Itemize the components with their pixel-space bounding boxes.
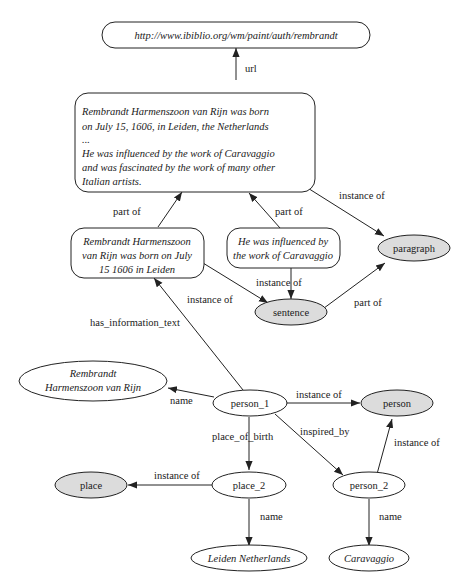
- sentence2-line-2: the work of Caravaggio: [233, 250, 333, 261]
- node-sentence-label: sentence: [273, 307, 309, 318]
- node-sentence1-text[interactable]: Rembrandt Harmenszoon van Rijn was born …: [71, 228, 204, 278]
- node-leiden-label: Leiden Netherlands: [207, 553, 291, 564]
- paragraph-line-3: ...: [82, 134, 90, 145]
- edge-label-sentence1-part-of: part of: [113, 206, 141, 217]
- node-place-2[interactable]: place_2: [212, 472, 286, 498]
- edge-label-place2-instance-of: instance of: [154, 470, 200, 481]
- edge-label-place2-name: name: [260, 511, 283, 522]
- edge-label-inspired-by: inspired_by: [300, 426, 350, 437]
- node-caravaggio[interactable]: Caravaggio: [329, 545, 409, 571]
- node-place-2-label: place_2: [233, 480, 266, 491]
- node-person-class[interactable]: person: [361, 390, 433, 416]
- paragraph-line-2: on July 15, 1606, in Leiden, the Netherl…: [82, 121, 269, 132]
- node-place-class[interactable]: place: [55, 472, 127, 498]
- node-url-label: http://www.ibiblio.org/wm/paint/auth/rem…: [134, 30, 338, 41]
- paragraph-line-5: and was fascinated by the work of many o…: [82, 162, 276, 173]
- node-rembrandt-name[interactable]: Rembrandt Harmenszoon van Rijn: [19, 361, 167, 401]
- edge-label-url: url: [245, 63, 257, 74]
- edge-label-sentence1-instance-of: instance of: [187, 294, 233, 305]
- node-sentence2-text[interactable]: He was influenced by the work of Caravag…: [227, 228, 340, 268]
- node-paragraph-label: paragraph: [393, 243, 436, 254]
- node-paragraph-class[interactable]: paragraph: [378, 235, 450, 261]
- node-person-1[interactable]: person_1: [213, 390, 287, 416]
- edge-label-has-information-text: has_information_text: [90, 317, 180, 328]
- node-sentence-class[interactable]: sentence: [255, 299, 327, 325]
- node-caravaggio-label: Caravaggio: [344, 553, 394, 564]
- edge-sentence1-part-of: [158, 192, 182, 227]
- edge-person2-instance-of: [377, 419, 392, 474]
- node-leiden[interactable]: Leiden Netherlands: [191, 545, 307, 571]
- sentence1-line-2: van Rijn was born on July: [82, 250, 192, 261]
- paragraph-line-6: Italian artists.: [81, 176, 142, 187]
- sentence1-line-3: 15 1606 in Leiden: [99, 264, 175, 275]
- paragraph-line-4: He was influenced by the work of Caravag…: [81, 148, 275, 159]
- edge-label-paragraph-instance-of: instance of: [339, 190, 385, 201]
- nodes: http://www.ibiblio.org/wm/paint/auth/rem…: [19, 22, 450, 571]
- node-place-label: place: [80, 480, 102, 491]
- paragraph-line-1: Rembrandt Harmenszoon van Rijn was born: [81, 106, 269, 117]
- sentence2-line-1: He was influenced by: [237, 236, 328, 247]
- edge-label-sentence2-part-of: part of: [275, 206, 303, 217]
- node-person-label: person: [383, 398, 412, 409]
- rembrandt-name-line-2: Harmenszoon van Rijn: [44, 382, 141, 393]
- node-person-1-label: person_1: [231, 398, 270, 409]
- knowledge-graph-diagram: url instance of part of part of instance…: [0, 0, 460, 587]
- node-paragraph-text[interactable]: Rembrandt Harmenszoon van Rijn was born …: [75, 93, 315, 192]
- edge-label-sentence-part-of: part of: [354, 297, 382, 308]
- node-person-2-label: person_2: [350, 480, 389, 491]
- edge-inspired-by: [275, 414, 343, 475]
- sentence1-line-1: Rembrandt Harmenszoon: [82, 236, 191, 247]
- node-url[interactable]: http://www.ibiblio.org/wm/paint/auth/rem…: [102, 22, 370, 48]
- edge-label-person1-instance-of: instance of: [296, 389, 342, 400]
- edge-label-sentence2-instance-of: instance of: [256, 277, 302, 288]
- edge-label-person1-name: name: [170, 395, 193, 406]
- edge-label-person2-name: name: [379, 511, 402, 522]
- edge-label-person2-instance-of: instance of: [394, 437, 440, 448]
- node-person-2[interactable]: person_2: [333, 472, 405, 498]
- rembrandt-name-line-1: Rembrandt: [69, 368, 118, 379]
- edge-label-place-of-birth: place_of_birth: [212, 431, 274, 442]
